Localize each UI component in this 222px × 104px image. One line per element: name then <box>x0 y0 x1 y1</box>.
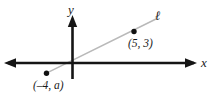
point-label-5-3: (5, 3) <box>128 38 153 50</box>
coordinate-plane-figure: y x ℓ (5, 3) (–4, a) <box>0 0 222 104</box>
y-axis-label: y <box>68 3 74 16</box>
x-axis-arrow-left <box>4 58 16 68</box>
x-axis-label: x <box>201 56 207 69</box>
point-label-n4-a: (–4, a) <box>33 80 64 92</box>
point-marker-5-3 <box>131 29 136 34</box>
x-axis-arrow-right <box>185 58 197 68</box>
line-ell-label: ℓ <box>155 9 160 22</box>
point-marker-n4-a <box>44 71 49 76</box>
